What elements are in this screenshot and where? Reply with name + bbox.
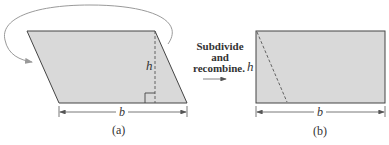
- transition-line-3: recombine.: [193, 62, 245, 74]
- base-label: b: [317, 105, 323, 119]
- transition-text: Subdivide and recombine.: [193, 40, 245, 79]
- panel-b: h b (b): [247, 31, 385, 138]
- height-label: h: [146, 58, 153, 73]
- figure: h b (a) Subdivide and recombine. h b (b): [0, 0, 389, 145]
- caption-b: (b): [313, 124, 327, 138]
- panel-a: h b (a): [4, 5, 187, 137]
- base-label: b: [119, 105, 125, 119]
- caption-a: (a): [112, 123, 125, 137]
- rectangle: [256, 31, 385, 103]
- parallelogram: [27, 31, 187, 103]
- height-label: h: [247, 59, 254, 74]
